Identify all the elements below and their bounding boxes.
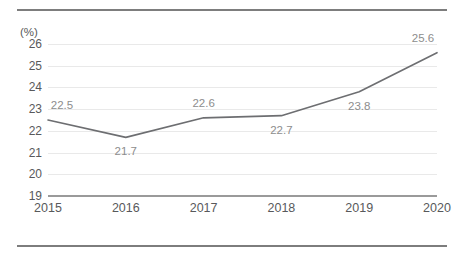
x-axis-tick-label: 2018: [267, 202, 295, 215]
data-point-label: 22.5: [51, 100, 73, 112]
x-axis-tick-label: 2019: [345, 202, 373, 215]
y-axis-tick-label: 21: [29, 147, 42, 159]
chart-figure: (%) 1920212223242526 2015201620172018201…: [0, 0, 464, 258]
y-axis-tick-label: 22: [29, 125, 42, 137]
series-line: [48, 53, 437, 138]
x-axis-tick-label: 2020: [423, 202, 451, 215]
data-point-label: 23.8: [348, 101, 370, 113]
x-axis-tick-label: 2015: [34, 202, 62, 215]
data-point-label: 22.7: [270, 125, 292, 137]
data-point-label: 25.6: [412, 33, 434, 45]
y-axis-tick-label: 24: [29, 81, 42, 93]
y-axis-tick-label: 23: [29, 103, 42, 115]
data-point-label: 22.6: [192, 98, 214, 110]
top-divider-rule: [17, 9, 447, 11]
x-axis-tick-label: 2016: [112, 202, 140, 215]
data-point-label: 21.7: [115, 147, 137, 159]
bottom-divider-rule: [17, 245, 447, 247]
series-line-group: [48, 44, 437, 196]
y-axis-tick-label: 26: [29, 38, 42, 50]
plot-area: 1920212223242526 20152016201720182019202…: [48, 44, 437, 196]
y-axis-tick-label: 20: [29, 168, 42, 180]
y-axis-tick-label: 25: [29, 60, 42, 72]
x-axis-tick-label: 2017: [190, 202, 218, 215]
